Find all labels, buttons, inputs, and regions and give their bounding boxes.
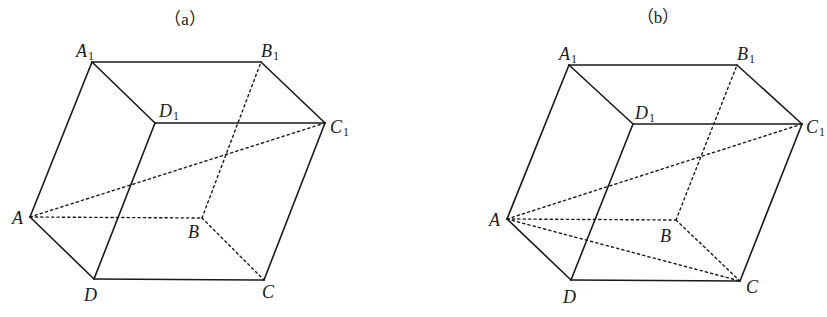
- diagram-a-vertex-labels: A1B1D1C1ABDC: [11, 41, 349, 305]
- diagram-b: （b） A1B1D1C1ABDC: [488, 8, 825, 307]
- edge-d1-a1: [569, 65, 633, 124]
- vertex-label-b1: B1: [737, 44, 755, 66]
- edge-a-a1: [30, 62, 92, 217]
- vertex-label-b1: B1: [261, 41, 279, 63]
- diagram-b-title: （b）: [637, 8, 680, 27]
- figure-canvas: （a） A1B1D1C1ABDC （b） A1B1D1C1ABDC: [0, 0, 827, 317]
- edge-d1-a1: [92, 62, 155, 123]
- vertex-label-a: A: [11, 208, 24, 228]
- vertex-label-b: B: [188, 222, 199, 242]
- edge-a-c1: [30, 123, 325, 217]
- edge-a-a1: [507, 65, 569, 219]
- edge-b-b1: [676, 65, 737, 220]
- edge-c-c1: [740, 124, 802, 281]
- diagram-a-visible-edges: [30, 62, 325, 280]
- edge-d-c: [571, 280, 740, 281]
- edge-a-c1: [507, 124, 802, 219]
- edge-c-c1: [264, 123, 325, 280]
- edge-a-c: [507, 219, 740, 281]
- vertex-label-d: D: [83, 285, 97, 305]
- vertex-label-d1: D1: [158, 101, 179, 123]
- vertex-label-b: B: [660, 226, 671, 246]
- edge-b1-c1: [737, 65, 802, 124]
- edge-d-d1: [94, 123, 155, 279]
- diagram-b-visible-edges: [507, 65, 802, 281]
- edge-b-c: [676, 220, 740, 281]
- vertex-label-c1: C1: [806, 117, 825, 139]
- edge-d-c: [94, 279, 264, 280]
- edge-b1-c1: [261, 62, 325, 123]
- edge-b-b1: [202, 62, 261, 218]
- edge-a-d: [30, 217, 94, 279]
- edge-d-d1: [571, 124, 633, 280]
- vertex-label-d: D: [562, 287, 576, 307]
- vertex-label-a: A: [488, 210, 501, 230]
- edge-b-c: [202, 218, 264, 280]
- parallelepiped-figure: （a） A1B1D1C1ABDC （b） A1B1D1C1ABDC: [0, 0, 827, 317]
- vertex-label-c: C: [262, 282, 275, 302]
- diagram-a-hidden-edges: [30, 62, 325, 280]
- vertex-label-c: C: [746, 277, 759, 297]
- diagram-a-title: （a）: [164, 10, 206, 29]
- diagram-a: （a） A1B1D1C1ABDC: [11, 10, 349, 305]
- diagram-b-hidden-edges: [507, 65, 802, 281]
- vertex-label-d1: D1: [634, 103, 655, 125]
- edge-a-b: [30, 217, 202, 218]
- vertex-label-a1: A1: [75, 41, 94, 63]
- vertex-label-c1: C1: [330, 117, 349, 139]
- edge-a-b: [507, 219, 676, 220]
- diagram-b-vertex-labels: A1B1D1C1ABDC: [488, 44, 825, 307]
- vertex-label-a1: A1: [558, 44, 577, 66]
